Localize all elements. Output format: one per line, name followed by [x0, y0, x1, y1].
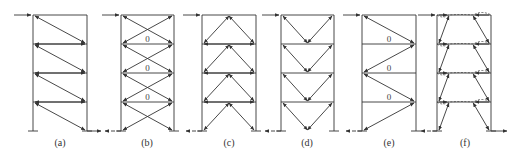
frame-d-label: (d) — [292, 137, 322, 148]
svg-text:0: 0 — [145, 63, 150, 73]
frame-c-label: (c) — [214, 137, 244, 148]
frame-e: 000 — [343, 15, 421, 131]
svg-text:0: 0 — [387, 63, 392, 73]
svg-text:0: 0 — [145, 34, 150, 44]
svg-text:0: 0 — [387, 34, 392, 44]
frame-f — [418, 13, 507, 132]
frame-b-label: (b) — [132, 137, 162, 148]
frame-f-label: (f) — [450, 137, 480, 148]
frame-a-label: (a) — [45, 137, 75, 148]
frame-d — [262, 15, 339, 131]
svg-text:0: 0 — [387, 92, 392, 102]
frame-b: 000 — [102, 15, 179, 131]
svg-text:0: 0 — [145, 92, 150, 102]
braced-frames-diagram: 000000 — [0, 0, 518, 164]
frame-a — [14, 15, 101, 131]
frame-c — [183, 15, 261, 131]
frame-e-label: (e) — [374, 137, 404, 148]
